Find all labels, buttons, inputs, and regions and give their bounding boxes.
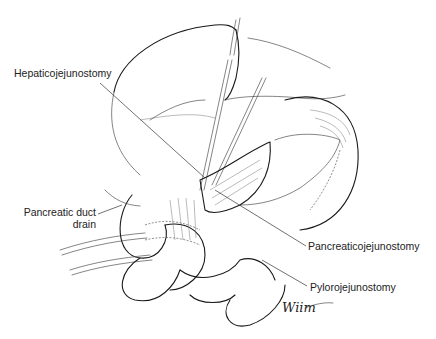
label-pancreatic-duct-drain: Pancreatic duct drain: [18, 206, 96, 230]
label-hepaticojejunostomy: Hepaticojejunostomy: [14, 67, 111, 79]
label-pancreatic-duct-drain-line2: drain: [18, 218, 96, 230]
label-pancreaticojejunostomy: Pancreaticojejunostomy: [308, 240, 419, 252]
artist-signature: Wiim: [282, 300, 316, 315]
drain-tubes: [60, 190, 152, 275]
label-pylorojejunostomy: Pylorojejunostomy: [310, 281, 396, 293]
pancreas: [200, 142, 270, 212]
ducts: [200, 18, 266, 190]
label-pancreatic-duct-drain-line1: Pancreatic duct: [18, 206, 96, 218]
stomach: [240, 97, 358, 230]
liver: [112, 25, 345, 175]
leader-lines: [98, 83, 307, 286]
